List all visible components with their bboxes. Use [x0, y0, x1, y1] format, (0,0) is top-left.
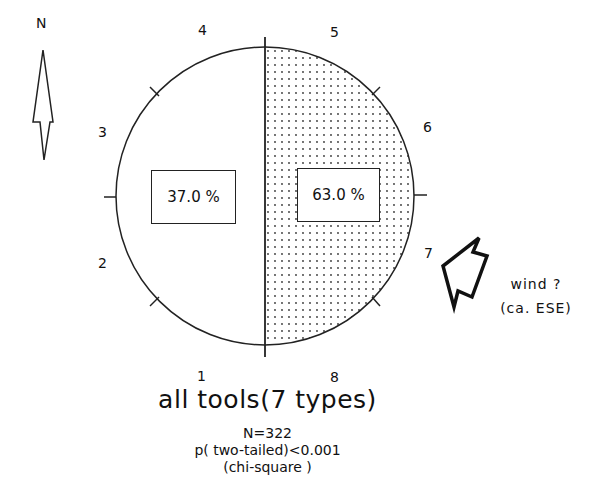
wind-label: wind ?	[496, 276, 576, 292]
north-label: N	[36, 16, 46, 30]
chart-title: all tools(7 types)	[0, 385, 535, 414]
sector-label-3: 3	[98, 125, 107, 139]
sector-label-6: 6	[423, 120, 432, 134]
p-value: p( two-tailed)<0.001	[0, 442, 535, 458]
test-name: (chi-square )	[0, 459, 535, 475]
wind-arrow-icon	[443, 238, 487, 307]
sector-label-8: 8	[330, 370, 339, 384]
sector-label-1: 1	[197, 369, 206, 383]
north-arrow-icon	[33, 50, 53, 160]
sector-label-2: 2	[98, 256, 107, 270]
sector-label-7: 7	[424, 246, 433, 260]
wind-direction: (ca. ESE)	[490, 300, 582, 316]
west-percent-box: 37.0 %	[151, 170, 236, 224]
sector-label-4: 4	[198, 23, 207, 37]
sector-label-5: 5	[330, 25, 339, 39]
sample-size: N=322	[0, 425, 535, 441]
east-percent-box: 63.0 %	[297, 168, 380, 222]
